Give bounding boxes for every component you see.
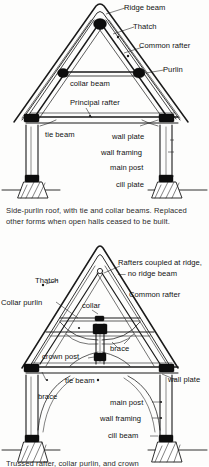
label-rafters-coupled: Rafters coupled at ridge, — no ridge bea… — [118, 258, 202, 279]
label-tie-beam-2: tie beam — [65, 376, 95, 385]
label-main-post-2: main post — [110, 398, 143, 407]
cill-plate-block-right — [159, 175, 173, 182]
brace-crown-up-left-2 — [66, 334, 98, 344]
label-wall-framing: wall framing — [101, 148, 142, 157]
label-purlin: Purlin — [163, 65, 183, 74]
label-collar: collar — [82, 301, 100, 310]
crown-post-roof-diagram: Rafters coupled at ridge, — no ridge bea… — [0, 240, 209, 466]
label-common-rafter: Common rafter — [139, 41, 190, 50]
wall-plate-block-right-2 — [159, 364, 174, 372]
label-collar-beam: collar beam — [70, 79, 110, 88]
rafter-right — [100, 270, 160, 364]
label-common-rafter-2: Common rafter — [129, 290, 180, 299]
collar-purlin-joint — [93, 324, 107, 334]
label-brace-left: brace — [38, 392, 57, 401]
label-brace-right: brace — [110, 344, 129, 353]
label-principal-rafter: Principal rafter — [70, 98, 120, 107]
side-purlin-roof-diagram: Ridge beam Thatch Common rafter Purlin c… — [0, 0, 209, 200]
main-post-left-2 — [26, 375, 38, 440]
cill-beam-block-right — [159, 435, 173, 442]
label-main-post: main post — [110, 163, 143, 172]
label-thatch-2: Thatch — [35, 276, 59, 285]
coupled-rafter-apex — [97, 268, 102, 273]
label-wall-framing-2: wall framing — [100, 414, 141, 423]
main-post-left — [26, 125, 38, 180]
label-wall-plate: wall plate — [112, 132, 144, 141]
wall-plate-block-right — [159, 114, 174, 122]
wall-plate-block-left-2 — [24, 364, 39, 372]
wall-plate-block-left — [24, 114, 39, 122]
label-thatch: Thatch — [133, 22, 157, 31]
leader-ridge-beam — [106, 8, 125, 14]
cill-beam-block-left — [25, 435, 39, 442]
collar-joint — [95, 316, 104, 321]
cill-plate-block-left — [25, 175, 39, 182]
label-wall-plate-2: wall plate — [168, 375, 200, 384]
label-collar-purlin: Collar purlin — [1, 298, 42, 307]
crown-post-base-joint — [94, 353, 106, 361]
wall-brace-left-2 — [43, 378, 74, 432]
caption-side-purlin-roof: Side-purlin roof, with tie and collar be… — [6, 205, 206, 227]
label-crown-post: crown post — [42, 352, 79, 361]
purlin-joint-left — [58, 68, 69, 77]
label-cill-beam: cill beam — [108, 431, 138, 440]
label-cill-plate: cill plate — [116, 180, 144, 189]
ridge-beam-joint — [94, 19, 107, 30]
label-ridge-beam: Ridge beam — [124, 3, 165, 12]
caption-crown-post-roof: Trussed rafter, collar purlin, and crown — [6, 458, 206, 467]
purlin-joint-right — [133, 68, 145, 78]
label-tie-beam: tie beam — [45, 130, 75, 139]
